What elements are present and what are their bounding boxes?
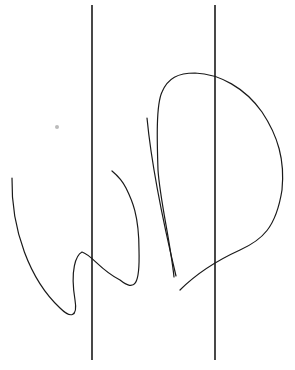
big-loop-stroke — [157, 73, 282, 290]
vertical-lines — [92, 5, 215, 360]
freehand-strokes — [12, 73, 283, 315]
sketch-canvas — [0, 0, 295, 370]
smudge — [55, 125, 59, 129]
smudge-marks — [55, 125, 59, 129]
left-s-curve — [12, 171, 139, 315]
